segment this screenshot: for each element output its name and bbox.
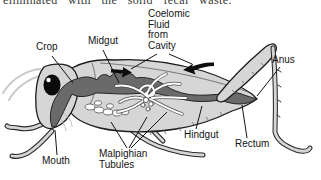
label-malpighian-line2: Tubules — [99, 160, 147, 171]
label-mouth: Mouth — [42, 156, 70, 167]
anatomy-figure: eliminated with the solid fecal waste. — [0, 0, 321, 180]
label-hindgut: Hindgut — [184, 130, 218, 141]
label-rectum: Rectum — [235, 139, 269, 150]
label-coelomic-fluid: Coelomic Fluid from Cavity — [148, 9, 190, 51]
eye-highlight — [46, 78, 50, 82]
label-midgut: Midgut — [88, 36, 118, 47]
leader-mouth — [55, 130, 57, 155]
label-coelomic-line4: Cavity — [148, 41, 190, 52]
label-coelomic-line1: Coelomic — [148, 9, 190, 20]
eye — [44, 75, 61, 96]
label-malpighian-line1: Malpighian — [99, 149, 147, 160]
label-anus: Anus — [272, 55, 295, 66]
label-malpighian-tubules: Malpighian Tubules — [99, 149, 147, 170]
leader-coelomic-right — [169, 54, 192, 64]
label-coelomic-line3: from — [148, 30, 190, 41]
label-crop: Crop — [36, 42, 58, 53]
leader-rectum — [242, 105, 247, 138]
